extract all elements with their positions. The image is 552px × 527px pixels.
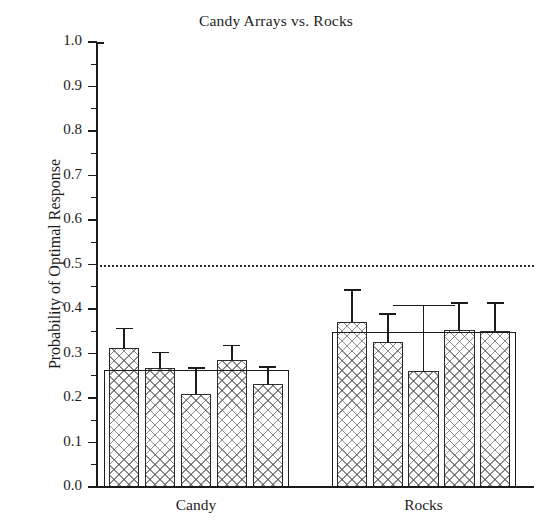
error-bar-cap: [344, 289, 361, 291]
error-bar-stem: [494, 302, 496, 331]
x-axis-group-label: Rocks: [332, 496, 516, 514]
y-tick-label: 0.7: [22, 166, 82, 183]
chart-title: Candy Arrays vs. Rocks: [0, 12, 552, 30]
error-bar-stem: [159, 352, 161, 368]
x-axis-group-label: Candy: [104, 496, 289, 514]
y-tick-label: 0.1: [22, 433, 82, 450]
chart-figure: Candy Arrays vs. Rocks Probability of Op…: [0, 0, 552, 527]
y-tick-label: 0.9: [22, 77, 82, 94]
y-tick-label: 0.2: [22, 388, 82, 405]
error-bar-stem: [351, 289, 353, 322]
error-bar-stem: [387, 313, 389, 342]
y-tick-label: 0.4: [22, 299, 82, 316]
error-bar-stem: [267, 366, 269, 384]
error-bar-cap: [393, 305, 455, 307]
error-bar-stem: [458, 302, 460, 330]
error-bar-stem: [231, 345, 233, 361]
error-bar-cap: [152, 352, 169, 354]
error-bar-cap: [379, 313, 396, 315]
error-bar-cap: [487, 302, 504, 304]
y-tick-label: 0.8: [22, 121, 82, 138]
error-bar-cap: [116, 328, 133, 330]
y-tick-label: 1.0: [22, 32, 82, 49]
error-bar-stem: [195, 367, 197, 394]
y-tick-label: 0.6: [22, 210, 82, 227]
y-tick-label: 0.0: [22, 477, 82, 494]
plot-area: [96, 42, 534, 487]
error-bar-stem: [423, 305, 425, 372]
error-bar-cap: [188, 367, 205, 369]
error-bar-cap: [259, 366, 276, 368]
error-bar-cap: [451, 302, 468, 304]
y-tick-label: 0.3: [22, 344, 82, 361]
error-bar-stem: [123, 328, 125, 348]
y-tick-label: 0.5: [22, 255, 82, 272]
error-bar-cap: [223, 345, 240, 347]
